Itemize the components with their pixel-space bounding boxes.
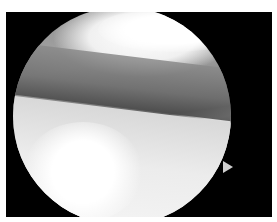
orientation-notch-icon: [223, 161, 233, 173]
upper-bright-region: [98, 12, 231, 52]
light-glare: [23, 122, 143, 217]
image-frame: [6, 12, 272, 217]
endoscope-view: [13, 12, 231, 217]
